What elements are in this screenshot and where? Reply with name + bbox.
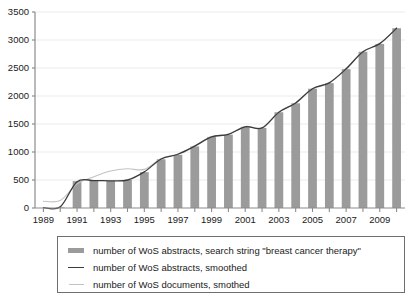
bar — [375, 44, 384, 208]
bar — [106, 181, 115, 208]
bar — [308, 89, 317, 208]
bar — [190, 146, 199, 208]
x-tick-label: 2001 — [235, 214, 256, 225]
chart-screenshot: 0500100015002000250030003500198919911993… — [0, 0, 414, 301]
dark-line-swatch-icon — [68, 262, 84, 273]
legend-item-documents-smoothed: number of WoS documents, smothed — [58, 276, 404, 293]
bar — [258, 128, 267, 208]
bar — [392, 28, 401, 208]
x-tick-label: 1997 — [167, 214, 188, 225]
x-tick-label: 2009 — [369, 214, 390, 225]
x-tick-label: 2003 — [268, 214, 289, 225]
x-tick-label: 1991 — [66, 214, 87, 225]
y-tick-label: 1500 — [8, 118, 29, 129]
bar — [274, 112, 283, 208]
legend-item-abstracts-smoothed: number of WoS abstracts, smoothed — [58, 259, 404, 276]
y-tick-label: 3000 — [8, 34, 29, 45]
bar — [89, 180, 98, 208]
legend-label-abstracts-smoothed: number of WoS abstracts, smoothed — [93, 262, 247, 273]
legend-label-documents-smoothed: number of WoS documents, smothed — [93, 279, 250, 290]
y-tick-label: 1000 — [8, 146, 29, 157]
bar — [241, 127, 250, 208]
chart-legend: number of WoS abstracts, search string "… — [57, 236, 405, 293]
x-tick-label: 2005 — [302, 214, 323, 225]
legend-item-abstracts-bars: number of WoS abstracts, search string "… — [58, 242, 404, 259]
bar — [157, 159, 166, 208]
bar — [207, 137, 216, 208]
chart-plot: 0500100015002000250030003500198919911993… — [0, 0, 414, 232]
y-tick-label: 3500 — [8, 6, 29, 17]
light-line-swatch-icon — [68, 279, 84, 290]
bar — [140, 172, 149, 208]
bar — [359, 52, 368, 208]
y-tick-label: 500 — [13, 174, 29, 185]
y-tick-label: 2000 — [8, 90, 29, 101]
bar — [174, 155, 183, 208]
x-tick-label: 2007 — [336, 214, 357, 225]
bar — [325, 83, 334, 208]
bar — [342, 69, 351, 208]
x-tick-label: 1995 — [134, 214, 155, 225]
chart-figure: 0500100015002000250030003500198919911993… — [0, 0, 414, 232]
y-tick-label: 2500 — [8, 62, 29, 73]
y-tick-label: 0 — [24, 202, 29, 213]
bar — [291, 103, 300, 208]
x-tick-label: 1999 — [201, 214, 222, 225]
bar — [224, 135, 233, 208]
x-tick-label: 1993 — [100, 214, 121, 225]
bar — [123, 180, 132, 208]
x-tick-label: 1989 — [33, 214, 54, 225]
bar-swatch-icon — [68, 245, 84, 256]
legend-label-abstracts-bars: number of WoS abstracts, search string "… — [93, 245, 361, 256]
